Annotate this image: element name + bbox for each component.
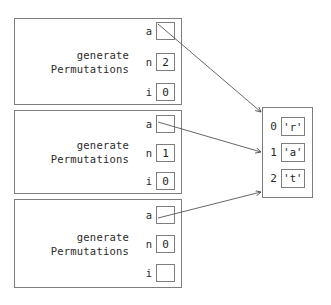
array-element-2: 2 't' bbox=[270, 169, 305, 188]
variable-value-n: 0 bbox=[156, 235, 175, 253]
variable-name-n: n bbox=[146, 148, 152, 159]
array-index-0: 0 bbox=[270, 121, 277, 132]
variable-name-a: a bbox=[146, 26, 152, 37]
variable-row-a: a bbox=[146, 206, 175, 224]
variable-value-a bbox=[156, 22, 175, 40]
array-element-1: 1 'a' bbox=[270, 143, 305, 162]
stack-frame-3-variables: a n 0 i bbox=[133, 200, 175, 287]
variable-row-i: i bbox=[146, 264, 175, 282]
variable-name-a: a bbox=[146, 210, 152, 221]
variable-value-a bbox=[156, 206, 175, 224]
stack-frame-1-label: generate Permutations bbox=[51, 48, 129, 76]
variable-row-a: a bbox=[146, 115, 175, 133]
variable-row-n: n 2 bbox=[146, 53, 175, 71]
variable-name-n: n bbox=[146, 239, 152, 250]
variable-value-i bbox=[156, 264, 175, 282]
stack-frame-2: generate Permutations a n 1 i 0 bbox=[14, 110, 182, 194]
stack-frame-3-label: generate Permutations bbox=[51, 230, 129, 258]
stack-frame-1: generate Permutations a n 2 i 0 bbox=[14, 18, 182, 105]
variable-row-a: a bbox=[146, 22, 175, 40]
array-index-1: 1 bbox=[270, 147, 277, 158]
variable-name-n: n bbox=[146, 57, 152, 68]
array-element-0: 0 'r' bbox=[270, 117, 305, 136]
stack-frame-1-variables: a n 2 i 0 bbox=[133, 19, 175, 104]
variable-name-i: i bbox=[146, 87, 152, 98]
variable-value-n: 1 bbox=[156, 144, 175, 162]
variable-value-a bbox=[156, 115, 175, 133]
variable-name-i: i bbox=[146, 268, 152, 279]
diagram-canvas: generate Permutations a n 2 i 0 generate… bbox=[0, 0, 331, 305]
variable-row-i: i 0 bbox=[146, 172, 175, 190]
variable-value-n: 2 bbox=[156, 53, 175, 71]
stack-frame-2-label: generate Permutations bbox=[51, 138, 129, 166]
variable-row-n: n 1 bbox=[146, 144, 175, 162]
variable-value-i: 0 bbox=[156, 172, 175, 190]
array-value-1: 'a' bbox=[281, 143, 305, 162]
stack-frame-3: generate Permutations a n 0 i bbox=[14, 199, 182, 288]
variable-name-a: a bbox=[146, 119, 152, 130]
array-value-2: 't' bbox=[281, 169, 305, 188]
variable-name-i: i bbox=[146, 176, 152, 187]
array-value-0: 'r' bbox=[281, 117, 305, 136]
char-array: 0 'r' 1 'a' 2 't' bbox=[262, 107, 313, 198]
stack-frame-2-variables: a n 1 i 0 bbox=[133, 111, 175, 193]
array-index-2: 2 bbox=[270, 173, 277, 184]
variable-row-i: i 0 bbox=[146, 83, 175, 101]
variable-value-i: 0 bbox=[156, 83, 175, 101]
variable-row-n: n 0 bbox=[146, 235, 175, 253]
